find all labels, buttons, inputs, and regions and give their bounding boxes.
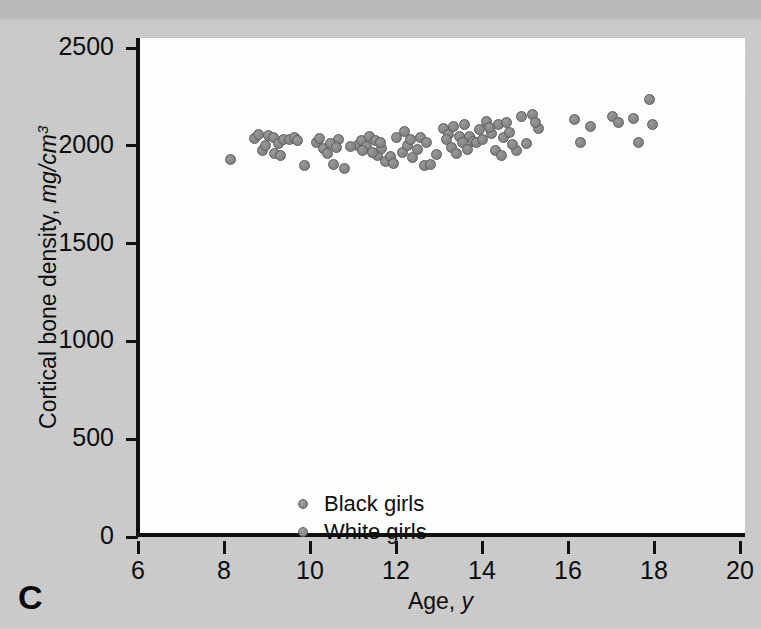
- x-axis-tick-label: 16: [538, 556, 598, 585]
- x-axis-tick: [395, 541, 398, 554]
- x-axis-tick-label: 12: [366, 556, 426, 585]
- plot-frame: Black girls White girls: [136, 38, 745, 537]
- x-axis-tick: [223, 541, 226, 554]
- data-point: [451, 148, 462, 159]
- legend-item-label: White girls: [324, 519, 427, 545]
- data-point: [459, 119, 470, 130]
- y-axis-title-exponent: 3: [34, 126, 51, 134]
- data-point: [299, 160, 310, 171]
- x-axis-tick-label: 8: [194, 556, 254, 585]
- data-point: [569, 114, 580, 125]
- data-point: [501, 117, 512, 128]
- data-point: [644, 94, 655, 105]
- data-point: [633, 137, 644, 148]
- data-point: [421, 137, 432, 148]
- x-axis-title-unit: y: [462, 588, 474, 614]
- data-point: [345, 141, 356, 152]
- data-point: [328, 159, 339, 170]
- legend-item: White girls: [298, 518, 427, 546]
- data-point: [425, 159, 436, 170]
- legend-marker-icon: [298, 527, 308, 537]
- data-point: [504, 127, 515, 138]
- x-axis-tick: [653, 541, 656, 554]
- data-point: [339, 163, 350, 174]
- page-top-band: [0, 0, 761, 17]
- y-axis-title: Cortical bone density, mg/cm3: [34, 17, 63, 537]
- x-axis-tick: [309, 541, 312, 554]
- x-axis-tick-label: 18: [624, 556, 684, 585]
- x-axis-tick: [137, 541, 140, 554]
- data-point: [516, 111, 527, 122]
- x-axis-tick-label: 10: [280, 556, 340, 585]
- legend-marker-icon: [298, 499, 308, 509]
- legend-item: Black girls: [298, 490, 427, 518]
- data-point: [357, 145, 368, 156]
- data-point: [477, 134, 488, 145]
- data-point: [585, 121, 596, 132]
- data-point: [484, 122, 495, 133]
- chart-legend: Black girls White girls: [298, 490, 427, 546]
- x-axis-tick-label: 6: [108, 556, 168, 585]
- data-point: [575, 137, 586, 148]
- data-point: [275, 150, 286, 161]
- legend-item-label: Black girls: [324, 491, 424, 517]
- data-point: [375, 137, 386, 148]
- data-point: [331, 142, 342, 153]
- data-point: [225, 154, 236, 165]
- data-point: [431, 149, 442, 160]
- x-axis-title: Age, y: [136, 588, 745, 615]
- data-point: [314, 133, 325, 144]
- figure-background: 05001000150020002500 Black girls White g…: [0, 0, 761, 629]
- data-point: [521, 138, 532, 149]
- data-point: [292, 135, 303, 146]
- x-axis-tick: [739, 541, 742, 554]
- plot-area: [140, 38, 745, 533]
- x-axis-tick-label: 20: [710, 556, 761, 585]
- data-point: [367, 147, 378, 158]
- x-axis-tick-label: 14: [452, 556, 512, 585]
- data-point: [628, 113, 639, 124]
- y-axis-title-unit: mg/cm: [35, 134, 61, 203]
- data-point: [613, 117, 624, 128]
- panel-letter: C: [18, 578, 43, 617]
- data-point: [388, 158, 399, 169]
- data-point: [496, 150, 507, 161]
- x-axis-title-text: Age,: [408, 588, 462, 614]
- y-axis-title-text: Cortical bone density,: [35, 203, 61, 429]
- data-point: [647, 119, 658, 130]
- x-axis-tick: [481, 541, 484, 554]
- x-axis-tick: [567, 541, 570, 554]
